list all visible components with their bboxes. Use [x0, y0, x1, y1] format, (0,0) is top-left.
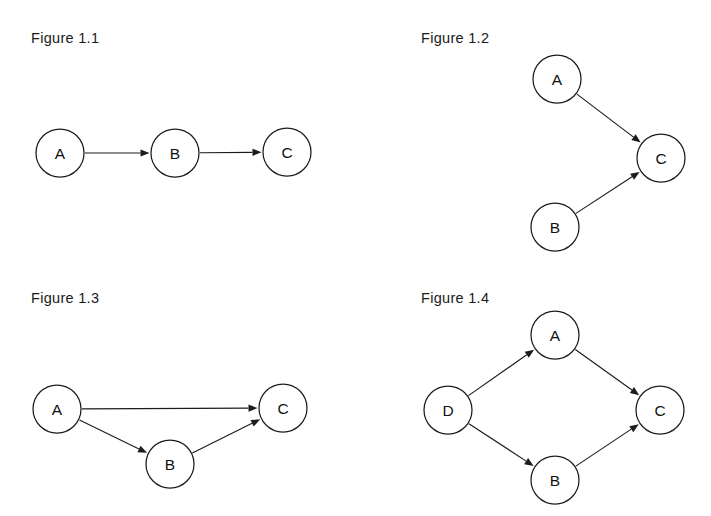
figure-1-3: ABC	[33, 384, 307, 488]
arrowhead-icon	[630, 387, 639, 395]
node-B[interactable]: B	[531, 203, 579, 251]
edge-B-to-C	[192, 419, 260, 453]
arrowhead-icon	[250, 419, 260, 426]
node-label-A: A	[55, 145, 66, 162]
edge-A-to-C	[575, 350, 639, 396]
figure-label-1-3: Figure 1.3	[31, 291, 99, 306]
node-A[interactable]: A	[36, 129, 84, 177]
arrowhead-icon	[630, 172, 640, 180]
figure-label-1-4: Figure 1.4	[421, 291, 489, 306]
edge-A-to-C	[577, 94, 641, 142]
node-label-B: B	[170, 145, 180, 162]
edge-A-to-B	[79, 420, 147, 453]
node-C[interactable]: C	[263, 128, 311, 176]
directed-graph-diagrams: ABCABCABCDABC	[0, 0, 711, 516]
node-label-B: B	[165, 456, 175, 473]
edge-D-to-B	[469, 424, 534, 466]
node-B[interactable]: B	[146, 440, 194, 488]
edge-D-to-A	[468, 350, 534, 396]
node-label-A: A	[550, 327, 561, 344]
node-label-B: B	[550, 472, 560, 489]
edge-B-to-C	[576, 172, 640, 213]
node-B[interactable]: B	[531, 456, 579, 504]
node-A[interactable]: A	[533, 55, 581, 103]
node-label-D: D	[442, 402, 453, 419]
arrowhead-icon	[629, 424, 638, 432]
node-D[interactable]: D	[424, 386, 472, 434]
arrowhead-icon	[252, 149, 261, 156]
arrowhead-icon	[137, 446, 147, 453]
node-label-A: A	[552, 71, 563, 88]
arrowhead-icon	[525, 350, 534, 358]
figure-1-4: DABC	[424, 311, 684, 504]
edge-B-to-C	[576, 424, 639, 466]
node-A[interactable]: A	[531, 311, 579, 359]
arrowhead-icon	[631, 134, 640, 142]
arrowhead-icon	[524, 458, 534, 466]
edge-B-to-C	[200, 149, 262, 156]
arrowhead-icon	[248, 405, 257, 412]
node-B[interactable]: B	[151, 129, 199, 177]
node-C[interactable]: C	[637, 134, 685, 182]
edge-A-to-B	[85, 149, 150, 156]
arrowhead-icon	[141, 149, 150, 156]
figure-label-1-2: Figure 1.2	[421, 31, 489, 46]
node-label-C: C	[655, 150, 666, 167]
figure-1-1: ABC	[36, 128, 311, 177]
node-A[interactable]: A	[33, 385, 81, 433]
node-label-A: A	[52, 401, 63, 418]
node-label-C: C	[654, 402, 665, 419]
node-label-B: B	[550, 219, 560, 236]
node-label-C: C	[281, 144, 292, 161]
figure-label-1-1: Figure 1.1	[31, 31, 99, 46]
node-C[interactable]: C	[259, 384, 307, 432]
node-C[interactable]: C	[636, 386, 684, 434]
figure-1-2: ABC	[531, 55, 685, 251]
edge-A-to-C	[82, 405, 258, 412]
figures-canvas: Figure 1.1 Figure 1.2 Figure 1.3 Figure …	[0, 0, 711, 516]
node-label-C: C	[277, 400, 288, 417]
